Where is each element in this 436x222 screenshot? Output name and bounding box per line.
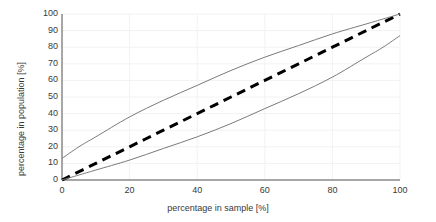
series-line xyxy=(62,14,400,158)
series-line xyxy=(62,36,400,180)
plot-area xyxy=(0,0,436,222)
chart-container: percentage in population [%] 01020304050… xyxy=(0,0,436,222)
x-axis-label: percentage in sample [%] xyxy=(0,203,436,213)
